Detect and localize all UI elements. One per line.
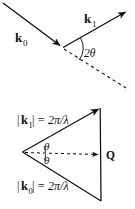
k1-magnitude-value: = 2π/λ [37,113,69,127]
k0-magnitude-k: k [21,179,28,193]
incident-wavevector-label-subscript: 0 [23,38,28,48]
scattering-vector-diagram: k 0 k 1 2θ | k 1 | = 2π/λ | [0,0,135,209]
triangle-q-side [100,108,101,201]
theta-upper-label: θ [44,140,50,152]
scattered-wavevector-label-k: k [84,11,92,26]
k0-magnitude-bar-right: | [32,179,34,193]
k1-magnitude-bar-left: | [17,113,19,127]
scattered-wavevector-label-subscript: 1 [92,19,97,29]
theta-lower-label: θ [44,154,50,166]
k0-magnitude-bar-left: | [17,179,19,193]
k1-magnitude-bar-right: | [32,113,34,127]
incident-wavevector-label-k: k [15,30,23,45]
k1-magnitude-k: k [21,113,28,127]
scattering-vector-label: Q [106,149,115,161]
two-theta-angle-label: 2θ [84,47,96,59]
k0-magnitude-value: = 2π/λ [37,179,69,193]
